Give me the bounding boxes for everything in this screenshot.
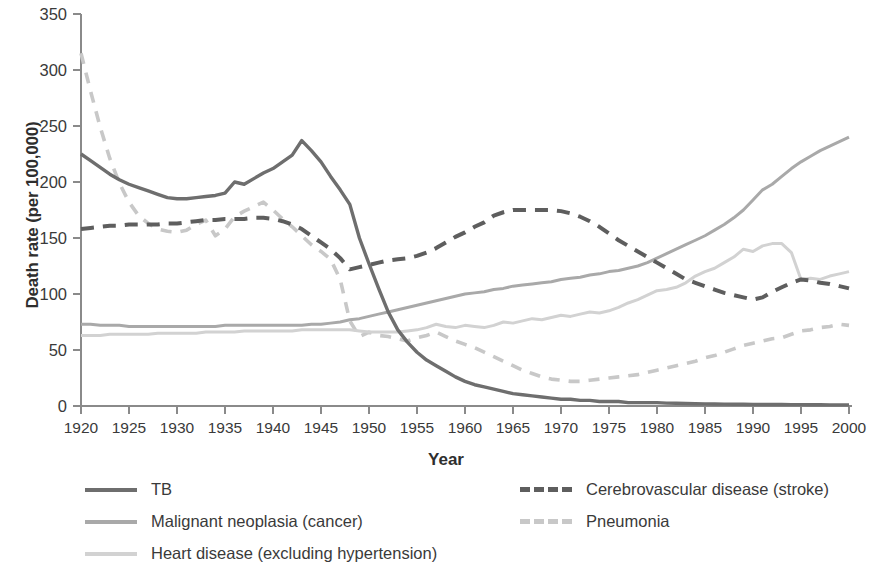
legend-swatch <box>520 487 572 492</box>
x-tick-label: 1925 <box>112 419 146 436</box>
x-tick-label: 1955 <box>400 419 434 436</box>
plot-area: 0501001502002503003501920192519301935194… <box>0 0 892 470</box>
x-tick-label: 1935 <box>208 419 242 436</box>
y-tick-label: 250 <box>39 117 67 135</box>
x-tick-label: 1920 <box>64 419 99 436</box>
legend-label: Malignant neoplasia (cancer) <box>151 512 363 531</box>
x-tick-label: 1985 <box>688 419 722 436</box>
y-tick-label: 300 <box>39 61 67 79</box>
x-tick-label: 1970 <box>544 419 579 436</box>
legend-swatch <box>85 488 137 492</box>
legend-swatch <box>85 552 137 556</box>
series-line <box>81 141 849 405</box>
x-tick-label: 1980 <box>640 419 675 436</box>
x-tick-label: 1930 <box>160 419 195 436</box>
y-tick-label: 0 <box>58 397 67 415</box>
legend-label: Heart disease (excluding hypertension) <box>151 544 437 563</box>
legend-swatch <box>520 519 572 524</box>
y-tick-label: 100 <box>39 285 67 303</box>
series-line <box>81 210 849 300</box>
y-tick-label: 200 <box>39 173 67 191</box>
x-tick-label: 1965 <box>496 419 530 436</box>
x-tick-label: 1945 <box>304 419 338 436</box>
x-tick-label: 1960 <box>448 419 483 436</box>
legend-item[interactable]: Heart disease (excluding hypertension) <box>85 544 437 563</box>
x-tick-label: 1940 <box>256 419 291 436</box>
x-tick-label: 1950 <box>352 419 387 436</box>
y-tick-label: 50 <box>49 341 67 359</box>
legend-item[interactable]: Malignant neoplasia (cancer) <box>85 512 363 531</box>
legend-item[interactable]: Pneumonia <box>520 512 669 531</box>
x-tick-label: 1995 <box>784 419 818 436</box>
x-tick-label: 1990 <box>736 419 771 436</box>
legend-item[interactable]: Cerebrovascular disease (stroke) <box>520 480 829 499</box>
y-tick-label: 150 <box>39 229 67 247</box>
legend-label: Cerebrovascular disease (stroke) <box>586 480 829 499</box>
series-line <box>81 244 849 336</box>
y-tick-label: 350 <box>39 5 67 23</box>
legend-item[interactable]: TB <box>85 480 172 499</box>
x-tick-label: 1975 <box>592 419 626 436</box>
legend-label: TB <box>151 480 172 499</box>
legend-swatch <box>85 520 137 524</box>
x-tick-label: 2000 <box>832 419 867 436</box>
legend-label: Pneumonia <box>586 512 669 531</box>
chart-legend: TBMalignant neoplasia (cancer)Heart dise… <box>0 478 892 560</box>
